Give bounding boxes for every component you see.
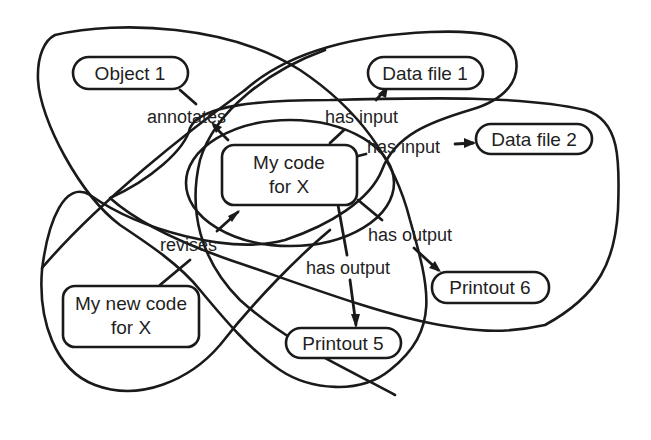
edge-object1-annotates: [180, 90, 196, 104]
node-printout5[interactable]: Printout 5: [286, 328, 401, 358]
node-datafile2[interactable]: Data file 2: [476, 124, 592, 154]
node-printout6[interactable]: Printout 6: [432, 272, 549, 303]
edge-label-has-output-printout6: has output: [368, 225, 452, 245]
arrowhead-printout5: [351, 314, 360, 328]
diagram-canvas: Object 1 Data file 1 Data file 2 My code…: [0, 0, 651, 440]
node-mynewcode-label-line1: My new code: [75, 293, 187, 314]
node-printout5-label: Printout 5: [302, 333, 383, 354]
node-mynewcode-label-line2: for X: [111, 317, 151, 338]
edge-mycode-hasinput2: [358, 154, 366, 156]
node-object1[interactable]: Object 1: [73, 57, 188, 89]
node-mycode-label-line2: for X: [269, 176, 309, 197]
node-datafile2-label: Data file 2: [491, 129, 577, 150]
node-mycode[interactable]: My code for X: [222, 145, 357, 205]
edge-label-has-input-datafile1: has input: [325, 107, 398, 127]
edge-mycode-hasinput1: [330, 130, 344, 143]
node-mycode-label-line1: My code: [253, 152, 325, 173]
node-mynewcode[interactable]: My new code for X: [63, 286, 199, 347]
edge-mycode-hasoutput6: [358, 200, 382, 220]
arrowhead-datafile2: [464, 138, 476, 148]
node-datafile1[interactable]: Data file 1: [368, 57, 483, 89]
edge-label-has-output-printout5: has output: [306, 258, 390, 278]
node-object1-label: Object 1: [95, 63, 166, 84]
node-datafile1-label: Data file 1: [382, 63, 468, 84]
edge-label-annotates: annotates: [147, 107, 226, 127]
node-printout6-label: Printout 6: [449, 277, 530, 298]
edge-label-has-input-datafile2: has input: [367, 137, 440, 157]
edge-label-revises: revises: [160, 235, 217, 255]
